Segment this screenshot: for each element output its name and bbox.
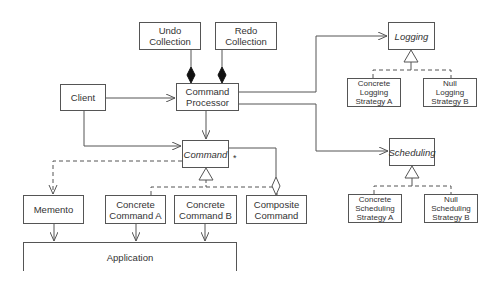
- class-label: Memento: [34, 204, 74, 215]
- class-label: Concrete Scheduling Strategy A: [355, 195, 395, 222]
- class-label: Application: [107, 252, 153, 263]
- class-label: Null Logging Strategy B: [431, 79, 468, 106]
- class-logging[interactable]: Logging: [388, 22, 435, 50]
- class-command-processor[interactable]: Command Processor: [176, 83, 239, 111]
- class-label: Redo Collection: [225, 25, 267, 47]
- multiplicity-label: *: [233, 153, 237, 163]
- class-label: Scheduling: [389, 147, 436, 158]
- class-memento[interactable]: Memento: [23, 195, 84, 224]
- class-scheduling[interactable]: Scheduling: [389, 138, 435, 166]
- class-label: Logging: [395, 31, 429, 42]
- class-null-logging-strategy-b[interactable]: Null Logging Strategy B: [423, 78, 477, 107]
- class-label: Command Processor: [186, 86, 230, 108]
- class-command[interactable]: Command: [182, 140, 229, 168]
- class-null-scheduling-strategy-b[interactable]: Null Scheduling Strategy B: [424, 194, 478, 223]
- class-label: Concrete Logging Strategy A: [356, 79, 393, 106]
- class-concrete-command-b[interactable]: Concrete Command B: [174, 195, 237, 224]
- class-label: Null Scheduling Strategy B: [431, 195, 471, 222]
- class-composite-command[interactable]: Composite Command: [246, 195, 307, 224]
- class-redo-collection[interactable]: Redo Collection: [215, 22, 277, 50]
- class-label: Undo Collection: [149, 25, 191, 47]
- class-label: Concrete Command A: [109, 199, 161, 221]
- class-concrete-logging-strategy-a[interactable]: Concrete Logging Strategy A: [347, 78, 401, 107]
- class-concrete-scheduling-strategy-a[interactable]: Concrete Scheduling Strategy A: [348, 194, 402, 223]
- class-client[interactable]: Client: [60, 84, 106, 111]
- class-application[interactable]: Application: [23, 242, 237, 271]
- class-label: Concrete Command B: [179, 199, 232, 221]
- class-undo-collection[interactable]: Undo Collection: [139, 22, 201, 50]
- class-label: Composite Command: [254, 199, 299, 221]
- class-concrete-command-a[interactable]: Concrete Command A: [105, 195, 166, 224]
- class-label: Command: [184, 149, 228, 160]
- class-label: Client: [71, 92, 95, 103]
